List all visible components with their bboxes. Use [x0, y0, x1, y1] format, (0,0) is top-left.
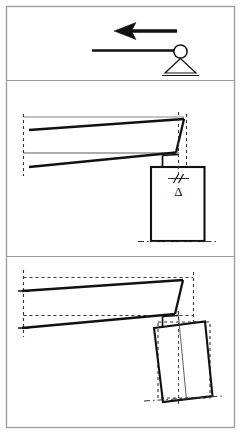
pin-joint-circle	[174, 45, 187, 58]
structural-diagram-svg: Δ	[0, 0, 241, 434]
joint-connector-top	[163, 155, 179, 156]
joint-connector-top	[163, 316, 179, 317]
figure-root: Δ	[0, 0, 241, 434]
delta-symbol: Δ	[174, 184, 182, 199]
